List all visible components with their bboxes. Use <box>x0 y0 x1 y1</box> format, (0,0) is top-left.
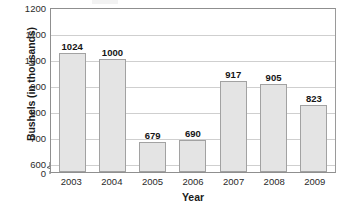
bar-slot-2006: 690 <box>173 9 213 172</box>
plot-area: 10241000679690917905823 <box>50 8 336 173</box>
bar-value-label-2006: 690 <box>185 128 201 139</box>
x-axis-tick-2006: 2006 <box>173 176 214 187</box>
y-axis-tick-1000: 1000 <box>18 56 46 66</box>
bar-slot-2003: 1024 <box>52 9 92 172</box>
bar-2008[interactable]: 905 <box>260 84 287 172</box>
bar-slot-2008: 905 <box>253 9 293 172</box>
bar-2003[interactable]: 1024 <box>59 53 86 172</box>
x-axis-tick-2008: 2008 <box>254 176 295 187</box>
bars-layer: 10241000679690917905823 <box>51 9 335 172</box>
bar-value-label-2007: 917 <box>225 69 241 80</box>
bar-2006[interactable]: 690 <box>179 140 206 172</box>
bar-slot-2005: 679 <box>133 9 173 172</box>
x-axis-tick-2004: 2004 <box>92 176 133 187</box>
x-axis-tick-2007: 2007 <box>213 176 254 187</box>
bar-value-label-2005: 679 <box>145 130 161 141</box>
bar-value-label-2008: 905 <box>266 72 282 83</box>
y-axis-tick-labels: 1200110010009008007006000 <box>14 0 46 211</box>
bar-2004[interactable]: 1000 <box>99 59 126 172</box>
bar-2007[interactable]: 917 <box>220 81 247 172</box>
bar-2005[interactable]: 679 <box>139 142 166 172</box>
bar-chart-figure: Bushels (in thousands) 12001100100090080… <box>0 0 344 211</box>
bar-value-label-2004: 1000 <box>102 47 123 58</box>
y-axis-tick-700: 700 <box>18 134 46 144</box>
bar-value-label-2009: 823 <box>306 93 322 104</box>
x-axis-tick-2003: 2003 <box>51 176 92 187</box>
y-axis-tick-0: 0 <box>18 169 46 179</box>
x-axis-tick-2005: 2005 <box>132 176 173 187</box>
x-axis-tick-2009: 2009 <box>294 176 335 187</box>
y-axis-tick-1200: 1200 <box>18 4 46 14</box>
x-axis-title: Year <box>50 191 336 203</box>
bar-2009[interactable]: 823 <box>300 105 327 172</box>
x-axis-tick-labels: 2003200420052006200720082009 <box>50 176 336 187</box>
y-axis-tick-800: 800 <box>18 108 46 118</box>
bar-slot-2007: 917 <box>213 9 253 172</box>
bar-slot-2009: 823 <box>294 9 334 172</box>
bar-value-label-2003: 1024 <box>62 41 83 52</box>
scan-artifact <box>92 0 118 4</box>
bar-slot-2004: 1000 <box>92 9 132 172</box>
y-axis-tick-900: 900 <box>18 82 46 92</box>
y-axis-tick-1100: 1100 <box>18 30 46 40</box>
